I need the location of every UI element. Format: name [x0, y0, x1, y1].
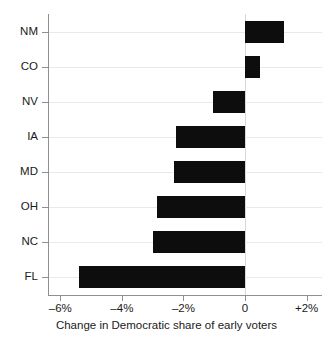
y-tick-mark [42, 67, 48, 68]
x-tick-mark [307, 296, 308, 301]
bar-nc [153, 231, 245, 253]
x-tick-mark [122, 296, 123, 301]
bar-nm [245, 21, 283, 43]
y-tick-label-oh: OH [21, 201, 38, 213]
x-tick-label-2: –2% [158, 303, 208, 315]
y-tick-label-md: MD [20, 166, 38, 178]
y-tick-mark [42, 207, 48, 208]
y-tick-mark [42, 172, 48, 173]
bar-oh [157, 196, 245, 218]
y-tick-mark [42, 32, 48, 33]
x-tick-mark [60, 296, 61, 301]
y-tick-mark [42, 277, 48, 278]
y-tick-label-nm: NM [20, 26, 38, 38]
x-tick-label-0: –6% [35, 303, 85, 315]
y-axis-spine [48, 14, 49, 295]
bar-co [245, 56, 260, 78]
y-tick-label-nc: NC [21, 236, 38, 248]
x-tick-label-3: 0 [220, 303, 270, 315]
y-tick-label-ia: IA [27, 131, 38, 143]
plot-area [48, 14, 322, 295]
y-tick-label-nv: NV [22, 96, 38, 108]
y-tick-label-fl: FL [25, 271, 38, 283]
y-tick-mark [42, 102, 48, 103]
bar-chart: NMCONVIAMDOHNCFL –6%–4%–2%0+2% Change in… [0, 0, 333, 342]
x-tick-mark [183, 296, 184, 301]
x-axis-spine [48, 295, 322, 296]
bar-nv [213, 91, 245, 113]
bar-md [174, 161, 245, 183]
x-tick-mark [245, 296, 246, 301]
x-axis-title: Change in Democratic share of early vote… [0, 320, 333, 332]
x-tick-label-4: +2% [282, 303, 332, 315]
bar-ia [176, 126, 245, 148]
y-tick-label-co: CO [21, 61, 38, 73]
grid-line [48, 67, 322, 68]
y-tick-mark [42, 242, 48, 243]
y-tick-mark [42, 137, 48, 138]
grid-line [48, 102, 322, 103]
x-tick-label-1: –4% [97, 303, 147, 315]
bar-fl [79, 266, 245, 288]
